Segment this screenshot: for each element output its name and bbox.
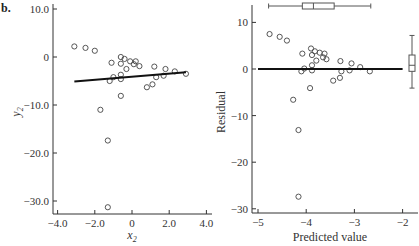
data-point — [105, 138, 110, 143]
x-tick-label: −3 — [349, 216, 361, 228]
y-tick-label: −20.0 — [24, 147, 50, 159]
y-tick-label: 0 — [243, 63, 249, 75]
data-point — [300, 51, 305, 56]
data-point — [291, 97, 296, 102]
data-point — [349, 61, 354, 66]
data-point — [152, 64, 157, 69]
data-point — [284, 38, 289, 43]
left-data-points — [72, 44, 189, 210]
x-tick-label: −2.0 — [85, 217, 105, 229]
y-tick-label: 10.0 — [30, 3, 50, 15]
x-tick-label: −4 — [300, 216, 312, 228]
data-point — [163, 66, 168, 71]
data-point — [317, 50, 322, 55]
y-tick-label: −30.0 — [24, 195, 50, 207]
data-point — [72, 44, 77, 49]
y-tick-label: 0 — [44, 51, 50, 63]
data-point — [314, 58, 319, 63]
x-tick-label: 4.0 — [200, 217, 214, 229]
data-point — [307, 86, 312, 91]
figure: b. 10.00−10.0−20.0−30.0−4.0−2.002.04.0 x… — [0, 0, 419, 246]
y-tick-label: −10.0 — [24, 99, 50, 111]
data-point — [150, 82, 155, 87]
data-point — [137, 64, 142, 69]
right-boxplot — [409, 35, 415, 88]
box — [409, 55, 415, 71]
data-point — [337, 75, 342, 80]
right-data-points — [267, 31, 372, 199]
data-point — [109, 60, 114, 65]
data-point — [144, 85, 149, 90]
data-point — [267, 31, 272, 36]
right-axes: 100−10−20−30−5−4−3−2 — [231, 5, 418, 228]
x-tick-label: −2 — [397, 216, 409, 228]
data-point — [309, 52, 314, 57]
data-point — [331, 78, 336, 83]
data-point — [92, 48, 97, 53]
data-point — [309, 63, 314, 68]
right-y-axis-label: Residual — [214, 90, 228, 133]
data-point — [98, 107, 103, 112]
top-boxplot — [269, 3, 371, 9]
data-point — [277, 34, 282, 39]
left-scatter-chart: 10.00−10.0−20.0−30.0−4.0−2.002.04.0 x2 y… — [9, 3, 214, 244]
x-tick-label: −5 — [252, 216, 264, 228]
y-tick-label: −20 — [231, 156, 249, 168]
y-tick-label: −10 — [231, 110, 249, 122]
data-point — [118, 61, 123, 66]
panel-label: b. — [1, 1, 11, 15]
data-point — [118, 93, 123, 98]
data-point — [296, 194, 301, 199]
data-point — [124, 66, 129, 71]
x-tick-label: 2.0 — [162, 217, 176, 229]
left-x-axis-label: x2 — [126, 228, 136, 244]
data-point — [83, 45, 88, 50]
left-axes: 10.00−10.0−20.0−30.0−4.0−2.002.04.0 — [24, 3, 214, 229]
box — [302, 3, 334, 9]
right-residual-chart: 100−10−20−30−5−4−3−2 Predicted value Res… — [214, 3, 418, 244]
right-x-axis-label: Predicted value — [293, 230, 367, 244]
data-point — [105, 205, 110, 210]
y-tick-label: 10 — [237, 16, 249, 28]
y-tick-label: −30 — [231, 203, 249, 215]
left-regression-line — [74, 72, 186, 81]
x-tick-label: −4.0 — [48, 217, 68, 229]
data-point — [296, 127, 301, 132]
left-y-axis-label: y2 — [9, 107, 25, 117]
data-point — [338, 58, 343, 63]
